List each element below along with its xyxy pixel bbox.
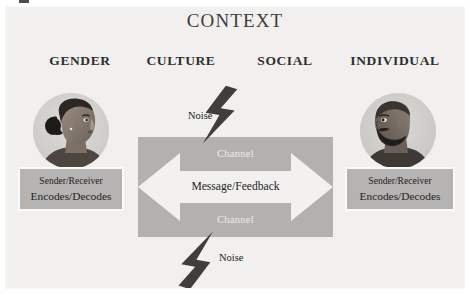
context-label-gender: GENDER (30, 53, 130, 69)
lightning-bolt-icon-bottom (168, 222, 222, 288)
sr-left-action: Encodes/Decodes (20, 188, 122, 204)
message-feedback-label: Message/Feedback (138, 180, 333, 193)
scan-artifact-mark (19, 0, 29, 3)
channel-label-top: Channel (138, 148, 333, 159)
noise-label-top: Noise (188, 110, 213, 121)
sr-right-action: Encodes/Decodes (347, 188, 453, 204)
diagram-canvas: CONTEXT GENDER CULTURE SOCIAL INDIVIDUAL (0, 0, 470, 294)
noise-label-bottom: Noise (219, 252, 244, 263)
avatar-left-woman (33, 93, 109, 169)
sender-receiver-box-right: Sender/Receiver Encodes/Decodes (345, 167, 455, 211)
context-label-individual: INDIVIDUAL (337, 53, 453, 69)
sr-left-role: Sender/Receiver (20, 174, 122, 188)
avatar-right-man (360, 93, 436, 169)
sender-receiver-box-left: Sender/Receiver Encodes/Decodes (18, 167, 124, 211)
context-label-social: SOCIAL (243, 53, 327, 69)
page-title: CONTEXT (0, 10, 470, 32)
sr-right-role: Sender/Receiver (347, 174, 453, 188)
context-label-culture: CULTURE (133, 53, 229, 69)
